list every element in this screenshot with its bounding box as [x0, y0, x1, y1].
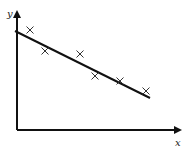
cross-marker-icon: [77, 51, 84, 58]
cross-marker-icon: [92, 73, 99, 80]
scatter-chart: y x: [0, 0, 190, 155]
cross-marker-icon: [27, 27, 34, 34]
cross-marker-icon: [143, 88, 150, 95]
y-axis-label: y: [6, 8, 13, 19]
fit-line: [15, 31, 150, 98]
cross-marker-icon: [42, 48, 49, 55]
x-axis-label: x: [175, 137, 181, 148]
data-points: [27, 27, 150, 95]
